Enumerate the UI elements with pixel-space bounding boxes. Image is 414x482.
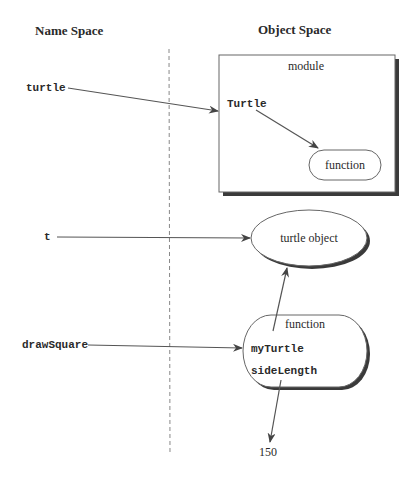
function-object: function myTurtle sideLength [243, 315, 370, 390]
arrow-t-to-turtle-object [57, 237, 250, 238]
arrow-turtle-to-module [68, 88, 218, 111]
name-space-header: Name Space [35, 23, 103, 38]
namespace-divider [169, 49, 170, 455]
param-sideLength: sideLength [251, 365, 317, 377]
arrow-drawSquare-to-function [88, 345, 242, 348]
param-myTurtle: myTurtle [251, 343, 304, 355]
module-box: module Turtle function [219, 55, 399, 196]
name-drawSquare: drawSquare [22, 339, 88, 351]
function-label: function [285, 317, 325, 331]
name-turtle: turtle [26, 82, 66, 94]
name-t: t [44, 231, 51, 243]
value-150: 150 [259, 445, 277, 459]
turtle-object: turtle object [251, 210, 370, 269]
diagram-svg: Name Space Object Space module Turtle fu… [0, 0, 414, 482]
namespace-diagram: Name Space Object Space module Turtle fu… [0, 0, 414, 482]
object-space-header: Object Space [258, 22, 332, 37]
turtle-class-name: Turtle [227, 98, 267, 110]
inner-function-label: function [325, 158, 365, 172]
turtle-object-label: turtle object [280, 231, 338, 245]
module-label: module [288, 59, 324, 73]
